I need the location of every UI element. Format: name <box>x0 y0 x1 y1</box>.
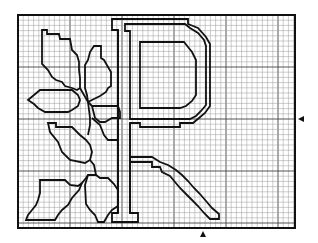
center-marker-bottom-arrow-icon <box>200 231 206 237</box>
letter-p-stem-inner <box>118 30 130 213</box>
leaf-outline <box>26 180 82 220</box>
leaf-outline <box>85 175 118 222</box>
leaf-outline <box>42 30 80 90</box>
center-marker-right-arrow-icon <box>298 116 304 122</box>
leaf-outline <box>85 46 111 102</box>
stem-line <box>88 102 90 135</box>
grid <box>18 15 295 228</box>
cross-stitch-chart <box>0 0 318 243</box>
letter-p-bowl-outer <box>125 24 206 119</box>
letter-p-tail <box>130 157 219 219</box>
